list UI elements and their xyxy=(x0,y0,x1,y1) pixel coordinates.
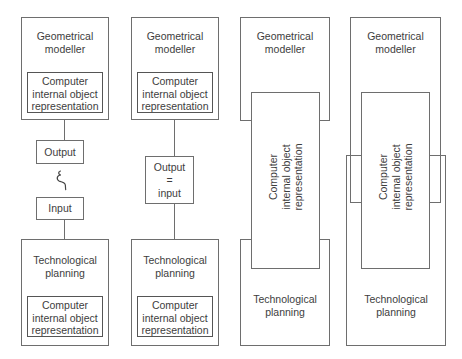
col1-geometrical-modeller-label: Geometrical modeller xyxy=(22,30,108,56)
col1-connector-bottom xyxy=(64,220,65,239)
col3-shared-representation-label: Computer internal object representation xyxy=(267,122,307,232)
col3-technological-planning-label: Technological planning xyxy=(241,293,329,319)
col2-internal-representation-box: Computer internal object representation xyxy=(137,72,213,113)
col1-output-box: Output xyxy=(36,140,84,164)
col1-output-label: Output xyxy=(37,146,83,159)
col1-geometrical-modeller-box: Geometrical modeller Computer internal o… xyxy=(21,17,109,120)
col2-geometrical-modeller-label: Geometrical modeller xyxy=(132,30,218,56)
col2-connector-top xyxy=(174,120,175,156)
col2-connector-bottom xyxy=(174,204,175,239)
col3-shared-representation-box: Computer internal object representation xyxy=(251,92,320,269)
col2-internal-representation-label-2: Computer internal object representation xyxy=(138,299,212,337)
col1-internal-representation-box-2: Computer internal object representation xyxy=(27,296,103,337)
col2-internal-representation-box-2: Computer internal object representation xyxy=(137,296,213,337)
col2-output-input-box: Output = input xyxy=(145,156,194,204)
col4-shared-representation-label: Computer internal object representation xyxy=(377,122,417,232)
col4-shared-representation-box: Computer internal object representation xyxy=(361,92,430,269)
col1-internal-representation-box: Computer internal object representation xyxy=(27,72,103,113)
col1-internal-representation-label-2: Computer internal object representation xyxy=(28,299,102,337)
col4-technological-planning-label: Technological planning xyxy=(347,293,445,319)
col1-internal-representation-label: Computer internal object representation xyxy=(28,75,102,113)
col2-technological-planning-label: Technological planning xyxy=(132,254,218,280)
col2-output-input-label: Output = input xyxy=(146,161,193,200)
col2-technological-planning-box: Technological planning Computer internal… xyxy=(131,239,219,346)
col2-internal-representation-label: Computer internal object representation xyxy=(138,75,212,113)
col1-input-box: Input xyxy=(36,197,84,220)
col1-connector-top xyxy=(64,120,65,140)
col1-input-label: Input xyxy=(37,202,83,215)
col2-geometrical-modeller-box: Geometrical modeller Computer internal o… xyxy=(131,17,219,120)
col3-geometrical-modeller-label: Geometrical modeller xyxy=(241,30,329,56)
col4-geometrical-modeller-label: Geometrical modeller xyxy=(351,30,440,56)
col1-technological-planning-box: Technological planning Computer internal… xyxy=(21,239,109,346)
col1-transfer-squiggle-icon xyxy=(52,169,72,193)
col1-technological-planning-label: Technological planning xyxy=(22,254,108,280)
